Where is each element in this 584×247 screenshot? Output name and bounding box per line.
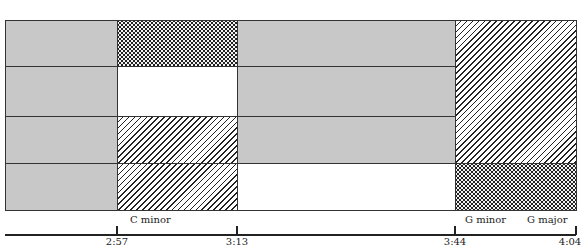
cell-r2-c0-gray — [5, 116, 118, 164]
time-label: 3:13 — [226, 236, 248, 247]
cell-r2-c1-hatch — [117, 116, 238, 164]
cell-r1-c2-gray — [237, 66, 456, 117]
cell-r3-c1-hatch — [117, 163, 238, 211]
cell-r1-c1-white — [117, 66, 238, 117]
cell-r3-c3-dots — [455, 163, 577, 211]
cell-r1-c0-gray — [5, 66, 118, 117]
time-label: 4:04 — [559, 236, 581, 247]
cell-r3-c0-gray — [5, 163, 118, 211]
texture-grid — [5, 20, 576, 210]
timeline-tick — [236, 226, 238, 235]
timeline-tick — [116, 226, 118, 235]
cell-r0-c2-gray — [237, 20, 456, 67]
cell-r2-c2-gray — [237, 116, 456, 164]
time-label: 2:57 — [106, 236, 128, 247]
time-label: 3:44 — [444, 236, 466, 247]
cell-r0-c3-hatch — [455, 20, 577, 164]
timeline-tick — [454, 226, 456, 235]
key-label: C minor — [130, 214, 171, 225]
cell-r0-c1-dots — [117, 20, 238, 67]
timeline-axis — [5, 234, 576, 236]
timeline-tick — [575, 226, 577, 235]
cell-r0-c0-gray — [5, 20, 118, 67]
key-label: G minor — [465, 214, 506, 225]
cell-r3-c2-white — [237, 163, 456, 211]
key-label: G major — [527, 214, 568, 225]
